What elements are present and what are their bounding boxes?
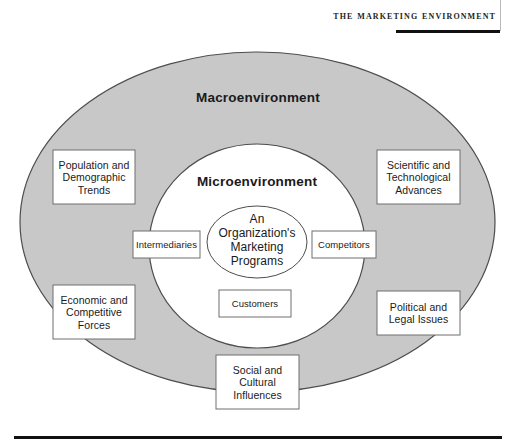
macroenvironment-label: Macroenvironment [178, 90, 338, 106]
figure-page: The Marketing Environment Macroenvironme… [0, 0, 516, 448]
label-social-cultural-influences: Social and Cultural Influences [216, 364, 299, 401]
label-scientific-technological-advances: Scientific and Technological Advances [377, 159, 460, 196]
marketing-environment-diagram: Macroenvironment Microenvironment An Org… [0, 40, 516, 415]
label-customers: Customers [219, 298, 291, 309]
label-intermediaries: Intermediaries [133, 239, 200, 250]
footer-rule [14, 436, 502, 439]
microenvironment-label: Microenvironment [182, 174, 332, 190]
label-economic-competitive-forces: Economic and Competitive Forces [53, 294, 135, 331]
running-head-title: The Marketing Environment [333, 9, 496, 21]
header-rule [396, 30, 500, 33]
header-vertical-rule [500, 0, 501, 31]
label-population-demographic-trends: Population and Demographic Trends [53, 159, 135, 196]
page-header: The Marketing Environment [0, 0, 516, 40]
label-political-legal-issues: Political and Legal Issues [377, 301, 460, 326]
label-competitors: Competitors [312, 239, 376, 250]
core-programs-label: An Organization's Marketing Programs [207, 212, 307, 269]
